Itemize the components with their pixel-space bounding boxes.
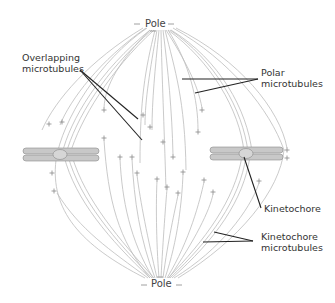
microtubules-top (62, 30, 252, 190)
kinetochore-right (239, 149, 253, 159)
polar-label-line2: microtubules (261, 78, 323, 89)
chromosome-right (210, 147, 283, 160)
polar-label-line1: Polar (261, 67, 323, 78)
kinetochore-mt-label-line1: Kinetochore (261, 231, 323, 242)
kinetochore-label: Kinetochore (264, 203, 321, 214)
kinetochore-microtubules-label: Kinetochore microtubules (261, 231, 323, 253)
polar-microtubules-label: Polar microtubules (261, 67, 323, 89)
overlapping-label-line2: microtubules (22, 63, 84, 74)
mitotic-spindle-diagram (0, 0, 335, 303)
kinetochore-left (53, 150, 67, 160)
overlapping-microtubules-label: Overlapping microtubules (22, 52, 84, 74)
overlapping-label-line1: Overlapping (22, 52, 84, 63)
pole-label-bottom: Pole (151, 278, 172, 289)
kinetochore-mt-label-line2: microtubules (261, 242, 323, 253)
pole-label-top: Pole (145, 18, 166, 29)
minus-end-markers (134, 24, 182, 285)
chromosome-left (23, 148, 99, 161)
